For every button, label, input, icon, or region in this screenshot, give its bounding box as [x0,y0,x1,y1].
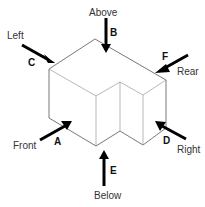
arrow-letter-f: F [162,51,168,62]
view-label-rear: Rear [177,66,199,77]
view-label-left: Left [7,30,24,41]
arrow-letter-c: C [28,57,35,68]
isometric-block [49,39,166,146]
arrow-e-below [99,150,109,186]
view-label-below: Below [94,190,122,201]
arrow-c-left [22,45,55,63]
view-label-above: Above [89,7,118,18]
arrow-up-icon [99,150,109,159]
arrow-letter-a: A [54,136,61,147]
arrow-letter-e: E [110,165,117,176]
block-top-inner-edge [49,69,166,96]
arrow-down-icon [101,44,111,53]
arrow-letter-d: D [163,135,170,146]
view-label-right: Right [177,144,201,155]
view-direction-diagram: Above B Left C F Rear Front A D Right E … [0,0,205,207]
block-outline [49,39,166,146]
view-label-front: Front [13,140,37,151]
arrow-letter-b: B [110,27,117,38]
arrow-d-right [155,121,186,139]
arrow-a-shaft [40,126,65,140]
